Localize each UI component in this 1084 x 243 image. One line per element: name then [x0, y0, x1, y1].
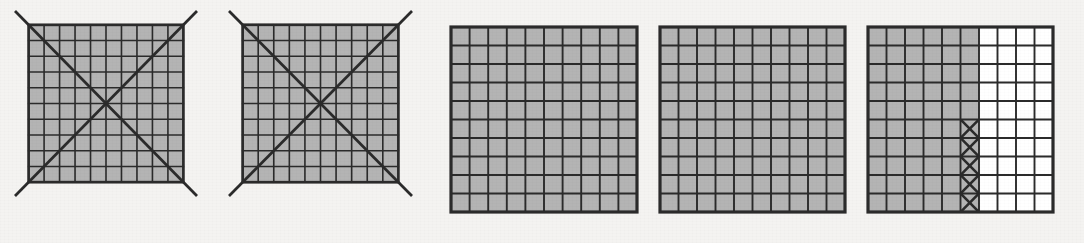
grid-cell — [258, 166, 274, 182]
grid-cell — [887, 194, 906, 213]
grid-cell — [563, 83, 582, 102]
grid-cell — [544, 101, 563, 120]
grid-cell — [1016, 175, 1035, 194]
grid-cell — [367, 135, 383, 151]
grid-cell — [488, 194, 507, 213]
grid-cell — [734, 46, 753, 65]
grid-cell — [367, 119, 383, 135]
grid-cell — [336, 166, 352, 182]
grid-cell — [942, 64, 961, 83]
grid-cell — [563, 120, 582, 139]
grid-cell — [979, 120, 998, 139]
grid-cell — [771, 27, 790, 46]
grid-cell — [106, 41, 121, 57]
grid-cell — [600, 64, 619, 83]
grid-cell — [1035, 157, 1054, 176]
grid-cell — [771, 101, 790, 120]
grid-cell — [507, 101, 526, 120]
grid-cell — [979, 175, 998, 194]
grid-cell — [352, 25, 368, 41]
grid-cell — [1016, 83, 1035, 102]
grid-cell — [525, 27, 544, 46]
grid-cell — [868, 64, 887, 83]
grid-cell — [91, 72, 106, 88]
grid-cell — [451, 194, 470, 213]
grid-cell — [998, 175, 1017, 194]
grid-cell — [336, 56, 352, 72]
grid-cell — [451, 175, 470, 194]
grid-cell — [321, 151, 337, 167]
grid-cell — [905, 64, 924, 83]
grid-cell — [942, 194, 961, 213]
grid-cell — [734, 157, 753, 176]
grid-cell — [581, 157, 600, 176]
grid-cell — [998, 138, 1017, 157]
grid-cell — [887, 138, 906, 157]
grid-cell — [60, 104, 75, 120]
grid-cell — [168, 135, 183, 151]
grid-cell — [451, 120, 470, 139]
grid-cell — [905, 120, 924, 139]
grid-cell — [44, 56, 59, 72]
grid-cell — [352, 88, 368, 104]
grid-cell — [544, 175, 563, 194]
grid-cell — [808, 46, 827, 65]
grid-cell — [544, 138, 563, 157]
grid-cell — [716, 64, 735, 83]
grid-cell — [563, 101, 582, 120]
grid-cell — [451, 46, 470, 65]
grid-cell — [106, 151, 121, 167]
grid-cell — [600, 27, 619, 46]
grid-cell — [1035, 83, 1054, 102]
grid-cell — [137, 166, 152, 182]
grid-cell — [924, 175, 943, 194]
grid-cell — [716, 46, 735, 65]
grid-cell — [679, 175, 698, 194]
grid-cell — [827, 83, 846, 102]
grid-cell — [525, 175, 544, 194]
grid-cell — [790, 64, 809, 83]
grid-cell — [734, 194, 753, 213]
grid-cell — [887, 27, 906, 46]
grid-cell — [383, 151, 399, 167]
grid-cell — [168, 56, 183, 72]
grid-cell — [660, 46, 679, 65]
grid-cell — [868, 194, 887, 213]
grid-cell — [734, 138, 753, 157]
panel-1-canvas — [15, 11, 197, 196]
grid-cell — [152, 25, 167, 41]
grid-cell — [507, 175, 526, 194]
grid-cell — [60, 41, 75, 57]
grid-cell — [60, 119, 75, 135]
grid-cell — [716, 83, 735, 102]
grid-cell — [336, 151, 352, 167]
grid-cell — [618, 83, 637, 102]
grid-cell — [924, 157, 943, 176]
grid-cell — [121, 56, 136, 72]
grid-cell — [1035, 175, 1054, 194]
grid-cell — [168, 119, 183, 135]
grid-cell — [544, 194, 563, 213]
grid-cell — [44, 25, 59, 41]
grid-cell — [887, 157, 906, 176]
grid-cell — [289, 56, 305, 72]
grid-cell — [367, 166, 383, 182]
grid-cell — [979, 157, 998, 176]
grid-cell — [1016, 194, 1035, 213]
grid-cell — [753, 46, 772, 65]
grid-cell — [790, 46, 809, 65]
grid-cell — [289, 166, 305, 182]
grid-cell — [679, 64, 698, 83]
grid-cell — [942, 120, 961, 139]
grid-cell — [600, 157, 619, 176]
grid-cell — [753, 175, 772, 194]
grid-cell — [137, 104, 152, 120]
grid-cell — [274, 41, 290, 57]
panel-3-canvas — [451, 27, 637, 212]
grid-cell — [790, 101, 809, 120]
grid-cell — [525, 83, 544, 102]
grid-cell — [563, 157, 582, 176]
grid-cell — [1035, 120, 1054, 139]
grid-cell — [507, 194, 526, 213]
grid-cell — [470, 83, 489, 102]
